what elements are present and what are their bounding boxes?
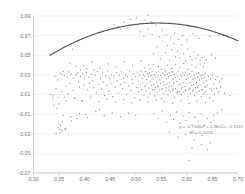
scatter-point	[135, 76, 136, 77]
scatter-point	[90, 96, 91, 97]
scatter-point	[151, 75, 152, 76]
scatter-point	[178, 39, 179, 40]
scatter-point	[135, 114, 136, 115]
scatter-point	[202, 57, 203, 58]
scatter-point	[100, 77, 101, 78]
scatter-point	[173, 88, 174, 89]
scatter-point	[144, 67, 145, 68]
scatter-point	[186, 79, 187, 80]
scatter-point	[197, 92, 198, 93]
scatter-point	[175, 64, 176, 65]
scatter-point	[66, 100, 67, 101]
scatter-point	[99, 109, 100, 110]
scatter-point	[146, 83, 147, 84]
scatter-point	[153, 84, 154, 85]
scatter-point	[183, 92, 184, 93]
scatter-point	[94, 75, 95, 76]
scatter-point	[153, 64, 154, 65]
scatter-point	[171, 86, 172, 87]
scatter-point	[179, 91, 180, 92]
scatter-point	[162, 88, 163, 89]
x-tick-label: 0.55	[156, 176, 166, 182]
scatter-point	[123, 99, 124, 100]
scatter-point	[215, 58, 216, 59]
scatter-point	[190, 93, 191, 94]
scatter-point	[70, 63, 71, 64]
scatter-point	[218, 92, 219, 93]
scatter-point	[87, 89, 88, 90]
scatter-point	[199, 91, 200, 92]
scatter-chart: 0.090.070.050.030.01-0.01-0.03-0.05-0.07…	[0, 0, 245, 194]
scatter-point	[193, 75, 194, 76]
scatter-point	[176, 111, 177, 112]
trendline	[50, 23, 238, 55]
scatter-point	[142, 82, 143, 83]
scatter-point	[57, 127, 58, 128]
scatter-point	[221, 109, 222, 110]
scatter-point	[182, 72, 183, 73]
scatter-point	[187, 75, 188, 76]
x-tick-label: 0.30	[28, 176, 38, 182]
scatter-point	[205, 91, 206, 92]
scatter-point	[145, 90, 146, 91]
scatter-point	[190, 76, 191, 77]
scatter-point	[114, 24, 115, 25]
scatter-point	[158, 71, 159, 72]
scatter-point	[173, 119, 174, 120]
scatter-point	[187, 96, 188, 97]
scatter-point	[192, 90, 193, 91]
x-tick-label: 0.65	[207, 176, 217, 182]
scatter-point	[207, 85, 208, 86]
scatter-point	[205, 73, 206, 74]
scatter-point	[186, 83, 187, 84]
scatter-point	[143, 95, 144, 96]
scatter-point	[177, 76, 178, 77]
scatter-point	[109, 78, 110, 79]
scatter-point	[216, 88, 217, 89]
scatter-point	[142, 78, 143, 79]
scatter-point	[188, 160, 189, 161]
scatter-point	[191, 59, 192, 60]
scatter-point	[213, 115, 214, 116]
scatter-point	[181, 76, 182, 77]
scatter-points	[50, 15, 230, 161]
scatter-point	[183, 53, 184, 54]
scatter-point	[193, 89, 194, 90]
scatter-point	[198, 121, 199, 122]
scatter-point	[64, 97, 65, 98]
scatter-point	[148, 87, 149, 88]
scatter-point	[132, 83, 133, 84]
scatter-point	[152, 71, 153, 72]
scatter-point	[196, 67, 197, 68]
scatter-point	[219, 81, 220, 82]
scatter-point	[130, 90, 131, 91]
scatter-point	[174, 74, 175, 75]
scatter-point	[62, 74, 63, 75]
scatter-point	[179, 78, 180, 79]
scatter-point	[150, 93, 151, 94]
scatter-point	[157, 92, 158, 93]
scatter-point	[193, 140, 194, 141]
scatter-point	[161, 69, 162, 70]
scatter-point	[167, 74, 168, 75]
scatter-point	[198, 85, 199, 86]
scatter-point	[210, 78, 211, 79]
scatter-point	[197, 87, 198, 88]
scatter-point	[124, 22, 125, 23]
scatter-point	[185, 61, 186, 62]
scatter-point	[160, 75, 161, 76]
scatter-point	[149, 72, 150, 73]
scatter-point	[177, 91, 178, 92]
scatter-point	[210, 122, 211, 123]
y-tick-label: 0.07	[20, 33, 30, 39]
scatter-point	[200, 75, 201, 76]
scatter-point	[71, 74, 72, 75]
scatter-point	[165, 52, 166, 53]
scatter-point	[59, 103, 60, 104]
scatter-point	[141, 89, 142, 90]
scatter-point	[164, 75, 165, 76]
scatter-point	[152, 89, 153, 90]
scatter-point	[176, 73, 177, 74]
scatter-point	[68, 71, 69, 72]
scatter-point	[153, 78, 154, 79]
